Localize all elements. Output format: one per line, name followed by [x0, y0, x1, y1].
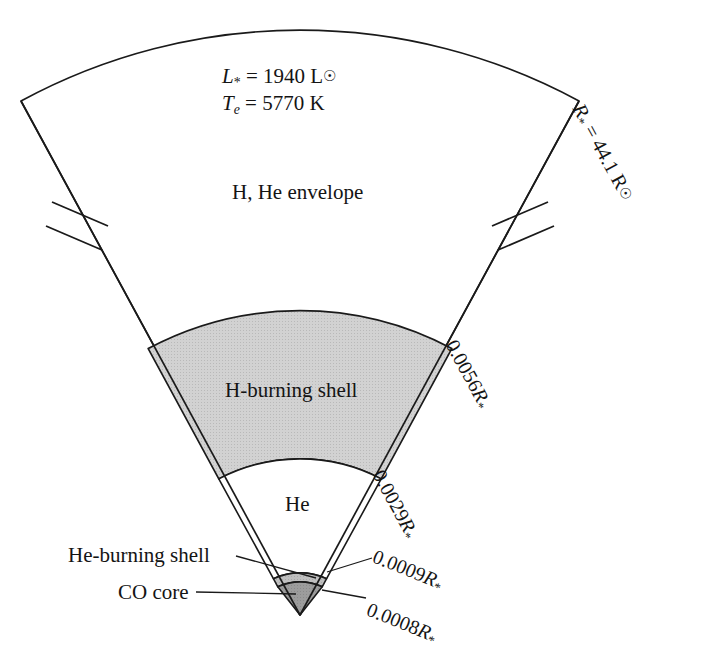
luminosity-line: L* = 1940 L☉: [222, 64, 336, 91]
callout-he-burning-shell: He-burning shell: [68, 543, 210, 568]
zone-he-layer: [219, 459, 381, 579]
zone-label-he: He: [285, 492, 310, 517]
figure-canvas: L* = 1940 L☉ Te = 5770 K H, He envelope …: [0, 0, 702, 668]
callout-co-core: CO core: [118, 580, 189, 605]
zone-label-h-burning-shell: H-burning shell: [225, 378, 357, 403]
star-stats-block: L* = 1940 L☉ Te = 5770 K: [222, 64, 336, 118]
stellar-wedge-svg: [0, 0, 702, 668]
leader-co-core: [196, 592, 296, 594]
zone-label-envelope: H, He envelope: [232, 180, 363, 205]
leader-r-0008: [322, 590, 366, 598]
temperature-line: Te = 5770 K: [222, 91, 336, 118]
